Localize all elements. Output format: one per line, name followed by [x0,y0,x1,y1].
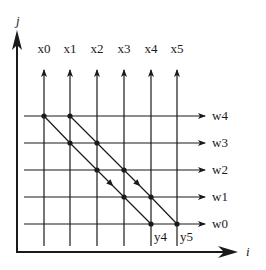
y5-label: y5 [180,229,193,244]
node-dot [94,167,99,172]
node-dot [148,221,153,226]
node-dot [41,113,46,118]
column-label-x4: x4 [145,41,159,56]
j-axis-label: j [14,13,20,28]
node-dot [67,140,72,145]
y4-label: y4 [154,229,168,244]
column-label-x0: x0 [38,41,51,56]
row-label-w2: w2 [212,162,228,177]
node-dot [121,167,126,172]
diagram-canvas: x0x1x2x3x4x5 w4w3w2w1w0 j i y4 y5 [0,0,266,270]
column-label-x1: x1 [64,41,77,56]
row-label-w4: w4 [212,108,228,123]
node-dot [67,113,72,118]
i-axis-label: i [246,244,250,259]
node-dot [148,194,153,199]
column-label-x5: x5 [171,41,184,56]
node-dot [121,194,126,199]
row-label-w3: w3 [212,135,228,150]
row-label-w0: w0 [212,216,228,231]
column-label-x2: x2 [91,41,104,56]
node-dot [94,140,99,145]
column-label-x3: x3 [118,41,131,56]
node-dot [174,221,179,226]
row-label-w1: w1 [212,189,228,204]
